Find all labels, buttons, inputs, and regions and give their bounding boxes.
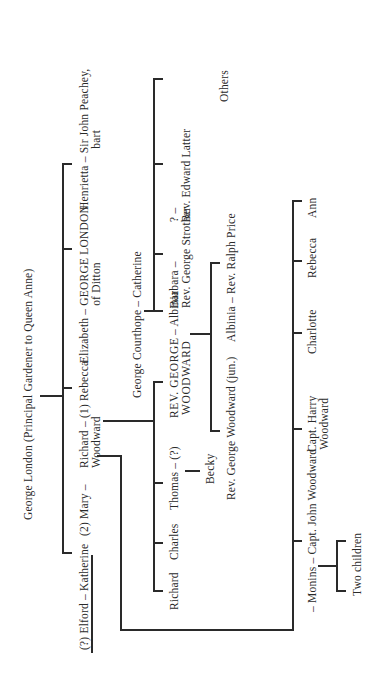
- mary-cross-line: [120, 629, 293, 631]
- becky-connector: [185, 470, 200, 472]
- person-rebecca: Richard – (1) Rebecca Woodward: [78, 361, 102, 468]
- harry-line2: Woodward: [318, 396, 330, 453]
- tick-barbara: [153, 253, 163, 255]
- root-person-label: George London (Principal Gardener to Que…: [22, 269, 34, 520]
- person-henrietta: Henrietta – Sir John Peachey, bart: [78, 69, 102, 210]
- tick-charlotte: [292, 332, 302, 334]
- person-mary: (2) Mary –: [78, 484, 90, 536]
- barbara-line1: Barbara –: [168, 261, 180, 308]
- rebecca-children-connector: [103, 420, 154, 422]
- person-barbara: Barbara – Rev. George Strother: [168, 207, 192, 308]
- tick-john: [292, 540, 302, 542]
- tick-child-2: [336, 590, 346, 592]
- tick-latter: [153, 163, 163, 165]
- rev-george-line2: WOODWARD: [180, 337, 192, 418]
- mary-connector: [97, 455, 121, 457]
- henrietta-line1: Henrietta – Sir John Peachey,: [78, 69, 90, 210]
- barbara-line2: Rev. George Strother: [180, 207, 192, 308]
- person-rev-george-woodward: REV. GEORGE WOODWARD: [168, 337, 192, 418]
- person-john: – Monins – Capt. John Woodward: [306, 449, 318, 612]
- two-children-bracket: [336, 540, 338, 591]
- person-katherine: (?) Elford – Katherine: [78, 544, 90, 650]
- tick-harry: [292, 428, 302, 430]
- tick-katherine: [62, 552, 72, 554]
- latter-line1: ? –: [168, 208, 180, 222]
- courthope-parents: George Courthope – Catherine: [131, 251, 143, 398]
- person-albinia-price: Albinia – Rev. Ralph Price: [225, 213, 237, 342]
- tick-others: [153, 78, 163, 80]
- person-charlotte: Charlotte: [306, 309, 318, 354]
- tick-albinia: [153, 310, 163, 312]
- person-richard: Richard: [168, 572, 180, 610]
- elizabeth-line1: Elizabeth – GEORGE LONDON: [78, 205, 90, 363]
- rebecca-children-bracket: [153, 381, 155, 591]
- tick-charles: [153, 542, 163, 544]
- two-children-label: Two children: [351, 533, 363, 596]
- person-george-jun: Rev. George Woodward (jun.): [225, 356, 237, 500]
- tick-rebecca2: [292, 260, 302, 262]
- tick-child-1: [336, 540, 346, 542]
- mary-children-bracket: [292, 200, 294, 631]
- tick-rebecca: [62, 387, 72, 389]
- latter-line2: Rev. Edward Latter: [180, 129, 192, 222]
- tick-george-jun: [210, 430, 220, 432]
- tick-ann: [292, 200, 302, 202]
- tick-henrietta: [62, 163, 72, 165]
- harry-line1: Capt. Harry: [306, 396, 318, 453]
- rev-george-children-connector: [190, 333, 211, 335]
- person-rebecca-daughter: Rebecca: [306, 238, 318, 278]
- person-charles: Charles: [168, 523, 180, 560]
- tick-elizabeth: [62, 248, 72, 250]
- person-thomas: Thomas – (?): [168, 446, 180, 510]
- root-connector: [40, 395, 63, 397]
- tick-rev-george: [153, 381, 163, 383]
- tick-thomas: [153, 482, 163, 484]
- person-becky: Becky: [204, 454, 216, 484]
- henrietta-line2: bart: [90, 69, 102, 210]
- generation1-bracket: [62, 163, 64, 553]
- person-others: Others: [218, 70, 230, 102]
- tick-albinia-price: [210, 262, 220, 264]
- person-harry: Capt. Harry Woodward: [306, 396, 330, 453]
- two-children-connector: [318, 565, 337, 567]
- rebecca-line1: Richard – (1) Rebecca: [78, 361, 90, 468]
- rev-george-line1: REV. GEORGE: [168, 337, 180, 418]
- tick-richard: [153, 590, 163, 592]
- courthope-bracket: [153, 78, 155, 311]
- person-latter: ? – Rev. Edward Latter: [168, 129, 192, 222]
- person-ann: Ann: [306, 198, 318, 218]
- rebecca-line2: Woodward: [90, 361, 102, 468]
- rev-george-children-bracket: [210, 262, 212, 431]
- person-elizabeth: Elizabeth – GEORGE LONDON of Ditton: [78, 205, 102, 363]
- elizabeth-line2: of Ditton: [90, 205, 102, 363]
- mary-drop-line: [120, 455, 122, 631]
- elford-underline: [91, 555, 93, 653]
